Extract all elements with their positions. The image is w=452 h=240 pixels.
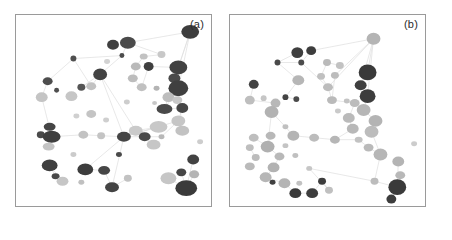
graph-node[interactable]	[350, 99, 360, 107]
graph-node[interactable]	[266, 132, 276, 140]
graph-node[interactable]	[147, 140, 161, 150]
graph-node[interactable]	[43, 131, 61, 143]
graph-node[interactable]	[124, 100, 130, 105]
graph-node[interactable]	[140, 54, 148, 60]
graph-node[interactable]	[275, 153, 285, 161]
graph-node[interactable]	[347, 124, 359, 134]
graph-node[interactable]	[388, 179, 406, 195]
graph-node[interactable]	[270, 180, 276, 185]
graph-node[interactable]	[78, 131, 88, 139]
graph-node[interactable]	[371, 178, 379, 185]
graph-node[interactable]	[78, 180, 84, 185]
graph-node[interactable]	[77, 84, 85, 91]
graph-node[interactable]	[289, 188, 301, 198]
graph-node[interactable]	[175, 180, 197, 196]
graph-node[interactable]	[355, 137, 363, 143]
graph-node[interactable]	[120, 37, 136, 49]
graph-node[interactable]	[137, 83, 147, 91]
graph-node[interactable]	[43, 143, 55, 151]
graph-node[interactable]	[323, 83, 333, 91]
graph-node[interactable]	[54, 88, 59, 93]
graph-node[interactable]	[42, 159, 58, 171]
graph-node[interactable]	[364, 144, 374, 152]
graph-node[interactable]	[260, 172, 272, 182]
graph-node[interactable]	[176, 103, 188, 113]
graph-node[interactable]	[116, 152, 122, 157]
graph-node[interactable]	[265, 106, 279, 118]
graph-node[interactable]	[360, 89, 376, 103]
graph-node[interactable]	[291, 47, 303, 58]
graph-node[interactable]	[367, 33, 381, 45]
graph-node[interactable]	[189, 170, 199, 178]
graph-node[interactable]	[306, 46, 316, 55]
graph-node[interactable]	[97, 132, 105, 139]
graph-node[interactable]	[331, 72, 339, 79]
graph-node[interactable]	[359, 64, 377, 80]
graph-node[interactable]	[293, 96, 299, 102]
graph-node[interactable]	[282, 94, 288, 100]
graph-node[interactable]	[139, 132, 151, 141]
graph-node[interactable]	[261, 95, 267, 101]
graph-node[interactable]	[343, 113, 355, 123]
graph-node[interactable]	[261, 141, 275, 153]
graph-node[interactable]	[131, 63, 141, 71]
graph-node[interactable]	[159, 134, 165, 139]
graph-node[interactable]	[252, 154, 260, 161]
graph-node[interactable]	[245, 96, 255, 105]
graph-node[interactable]	[282, 143, 288, 148]
graph-node[interactable]	[369, 115, 383, 127]
graph-node[interactable]	[86, 82, 96, 90]
graph-node[interactable]	[105, 182, 119, 192]
graph-node[interactable]	[344, 99, 350, 104]
graph-node[interactable]	[93, 68, 107, 80]
graph-node[interactable]	[169, 61, 187, 75]
graph-node[interactable]	[279, 178, 291, 188]
graph-node[interactable]	[249, 80, 259, 89]
graph-node[interactable]	[411, 141, 417, 146]
graph-node[interactable]	[152, 101, 157, 105]
graph-node[interactable]	[36, 92, 48, 102]
graph-node[interactable]	[107, 40, 119, 50]
graph-node[interactable]	[245, 162, 255, 170]
graph-node[interactable]	[158, 51, 166, 58]
graph-node[interactable]	[355, 80, 367, 90]
graph-node[interactable]	[249, 134, 259, 142]
graph-node[interactable]	[357, 104, 371, 116]
graph-node[interactable]	[175, 126, 189, 136]
graph-node[interactable]	[98, 166, 110, 175]
graph-node[interactable]	[292, 75, 304, 85]
graph-node[interactable]	[306, 188, 318, 198]
graph-node[interactable]	[176, 168, 186, 176]
graph-node[interactable]	[330, 136, 340, 144]
graph-node[interactable]	[197, 139, 203, 144]
graph-node[interactable]	[124, 175, 132, 182]
graph-node[interactable]	[86, 110, 96, 118]
graph-node[interactable]	[65, 91, 77, 101]
graph-node[interactable]	[296, 181, 302, 186]
graph-node[interactable]	[187, 155, 199, 165]
graph-node[interactable]	[317, 73, 325, 80]
graph-node[interactable]	[144, 62, 154, 71]
graph-node[interactable]	[323, 59, 331, 66]
graph-node[interactable]	[128, 74, 138, 82]
graph-node[interactable]	[392, 157, 404, 167]
graph-node[interactable]	[318, 178, 326, 185]
graph-node[interactable]	[365, 126, 379, 138]
graph-node[interactable]	[70, 152, 76, 157]
graph-node[interactable]	[268, 162, 280, 172]
graph-node[interactable]	[44, 123, 56, 131]
graph-node[interactable]	[161, 172, 177, 184]
graph-node[interactable]	[150, 121, 168, 133]
graph-node[interactable]	[157, 104, 173, 114]
graph-node[interactable]	[171, 115, 185, 126]
graph-node[interactable]	[77, 163, 93, 175]
graph-node[interactable]	[154, 86, 160, 91]
graph-node[interactable]	[282, 124, 288, 129]
graph-node[interactable]	[298, 60, 304, 66]
graph-node[interactable]	[117, 132, 131, 142]
graph-node[interactable]	[325, 187, 333, 194]
graph-node[interactable]	[172, 96, 182, 104]
graph-node[interactable]	[292, 153, 298, 158]
graph-node[interactable]	[306, 166, 312, 171]
graph-node[interactable]	[246, 144, 254, 151]
